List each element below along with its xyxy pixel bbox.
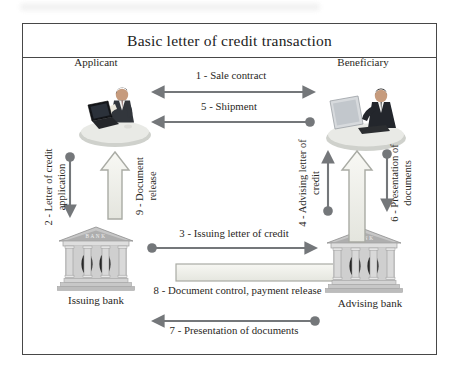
flow-label-presentation-documents-right: 6 - Presentation of documents	[388, 137, 416, 229]
flow-label-document-control: 8 - Document control, payment release	[115, 284, 360, 296]
bank-sign-text: BANK	[85, 233, 106, 239]
issuing-bank-building-icon: BANK	[56, 226, 136, 292]
flow-label-advising-lc: 4 - Advising letter of credit	[296, 139, 324, 227]
diagram-title: Basic letter of credit transaction	[127, 32, 332, 50]
scan-artifact	[20, 3, 320, 11]
advising-bank-label: Advising bank	[310, 297, 430, 309]
flow-label-shipment: 5 - Shipment	[149, 100, 309, 112]
bank-sign-text: BANK	[353, 235, 374, 241]
beneficiary-label: Beneficiary	[313, 56, 413, 68]
flow-label-issuing-lc: 3 - Issuing letter of credit	[134, 227, 334, 239]
flow-label-document-release: 9 - Document release	[133, 152, 161, 220]
flow-label-sale-contract: 1 - Sale contract	[151, 69, 311, 81]
applicant-label: Applicant	[46, 56, 146, 68]
flow-label-lc-application: 2 - Letter of credit application	[42, 139, 70, 235]
diagram-canvas: Basic letter of credit transaction Appli…	[0, 0, 459, 379]
flow-label-presentation-documents-bottom: 7 - Presentation of documents	[124, 324, 344, 336]
title-bar: Basic letter of credit transaction	[22, 23, 437, 58]
person-laptop-icon	[75, 84, 155, 148]
